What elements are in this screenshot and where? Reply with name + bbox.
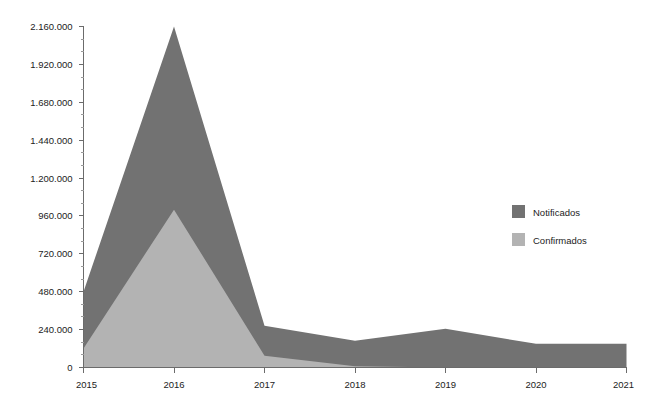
x-tick-group: 2015201620172018201920202021 [76,368,634,390]
x-tick-label: 2017 [254,379,275,390]
x-tick-label: 2018 [344,379,365,390]
y-tick-label: 1.440.000 [30,135,72,146]
x-tick-label: 2016 [163,379,184,390]
legend: Notificados Confirmados [512,205,587,246]
y-tick-label: 2.160.000 [30,21,72,32]
legend-label-confirmados: Confirmados [533,235,587,246]
y-tick-label: 1.920.000 [30,59,72,70]
x-tick-label: 2021 [613,379,634,390]
y-tick-label: 1.200.000 [30,173,72,184]
y-tick-group: 0240.000480.000720.000960.0001.200.0001.… [30,21,83,373]
legend-swatch-notificados [512,205,525,218]
y-tick-label: 960.000 [38,210,72,221]
x-tick-label: 2015 [76,379,97,390]
x-tick-label: 2020 [525,379,546,390]
legend-label-notificados: Notificados [533,207,580,218]
y-tick-label: 240.000 [38,324,72,335]
chart-canvas: 0240.000480.000720.000960.0001.200.0001.… [0,0,651,402]
y-tick-label: 0 [67,362,72,373]
area-chart: 0240.000480.000720.000960.0001.200.0001.… [0,0,651,402]
x-tick-label: 2019 [435,379,456,390]
y-tick-label: 720.000 [38,248,72,259]
y-tick-label: 1.680.000 [30,97,72,108]
legend-swatch-confirmados [512,233,525,246]
y-tick-label: 480.000 [38,286,72,297]
